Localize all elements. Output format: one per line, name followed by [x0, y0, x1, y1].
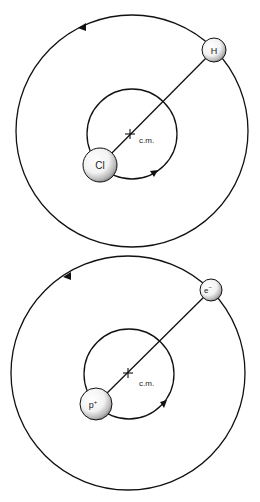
center-of-mass-label: c.m. [139, 136, 154, 145]
bond-line [100, 50, 214, 165]
hydrogen-atom-diagram: c.m. p+ e− [11, 256, 245, 490]
hcl-diagram: c.m. Cl H [16, 15, 248, 247]
inner-orbit-arrow-icon [160, 400, 167, 408]
chlorine-atom: Cl [83, 148, 117, 182]
center-of-mass-label: c.m. [139, 379, 154, 388]
orbit-diagram: c.m. Cl H c.m. p+ e− [0, 0, 260, 502]
chlorine-label: Cl [95, 160, 104, 171]
hydrogen-label: H [211, 46, 218, 56]
hydrogen-atom: H [202, 38, 226, 62]
inner-orbit-arrow-icon [150, 170, 158, 177]
proton: p+ [80, 388, 112, 420]
electron: e− [200, 279, 222, 301]
